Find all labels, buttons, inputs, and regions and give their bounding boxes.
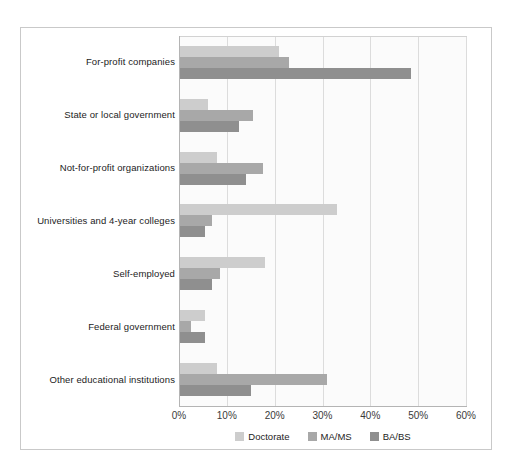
x-tick-label: 40%: [348, 410, 392, 421]
y-axis-line: [179, 36, 180, 407]
bar: [179, 321, 191, 332]
bar: [179, 163, 263, 174]
x-tick-label: 30%: [301, 410, 345, 421]
category-label: Universities and 4-year colleges: [15, 215, 175, 226]
category-label: Federal government: [15, 321, 175, 332]
legend-label: BA/BS: [383, 431, 411, 442]
x-tick-label: 60%: [444, 410, 488, 421]
legend-item-ba-bs[interactable]: BA/BS: [370, 431, 411, 442]
bar: [179, 332, 205, 343]
bar-group: [179, 247, 466, 300]
bar: [179, 174, 246, 185]
category-label: Other educational institutions: [15, 374, 175, 385]
x-axis-tick-labels: 0%10%20%30%40%50%60%: [179, 410, 467, 426]
bar: [179, 310, 205, 321]
bar: [179, 363, 217, 374]
x-tick-label: 20%: [253, 410, 297, 421]
bar: [179, 226, 205, 237]
legend-item-ma-ms[interactable]: MA/MS: [308, 431, 352, 442]
bar: [179, 204, 337, 215]
bar-group: [179, 142, 466, 195]
bar: [179, 215, 212, 226]
category-label: For-profit companies: [15, 56, 175, 67]
bar: [179, 257, 265, 268]
category-label: State or local government: [15, 109, 175, 120]
bar: [179, 121, 239, 132]
bar: [179, 374, 327, 385]
category-label: Not-for-profit organizations: [15, 162, 175, 173]
category-axis-labels: For-profit companiesState or local gover…: [13, 36, 175, 406]
legend-item-doctorate[interactable]: Doctorate: [235, 431, 289, 442]
plot-area: [179, 36, 466, 406]
bar: [179, 46, 279, 57]
bar: [179, 99, 208, 110]
bar-group: [179, 195, 466, 248]
bar: [179, 68, 411, 79]
x-tick-label: 10%: [205, 410, 249, 421]
plot-top-border: [179, 36, 467, 37]
bar-group: [179, 89, 466, 142]
legend-label: MA/MS: [321, 431, 352, 442]
bar: [179, 385, 251, 396]
legend-swatch-icon: [370, 432, 379, 441]
legend-label: Doctorate: [248, 431, 289, 442]
bar-group: [179, 353, 466, 406]
bar: [179, 110, 253, 121]
x-axis-line: [179, 406, 467, 407]
chart-legend: DoctorateMA/MSBA/BS: [179, 428, 467, 444]
gridline-60%: [466, 36, 467, 406]
chart-figure: For-profit companiesState or local gover…: [0, 0, 515, 473]
legend-swatch-icon: [308, 432, 317, 441]
bar: [179, 268, 220, 279]
legend-swatch-icon: [235, 432, 244, 441]
category-label: Self-employed: [15, 268, 175, 279]
x-tick-label: 0%: [157, 410, 201, 421]
bar-group: [179, 300, 466, 353]
bar-group: [179, 36, 466, 89]
bar: [179, 152, 217, 163]
x-tick-label: 50%: [396, 410, 440, 421]
bar: [179, 57, 289, 68]
bar: [179, 279, 212, 290]
